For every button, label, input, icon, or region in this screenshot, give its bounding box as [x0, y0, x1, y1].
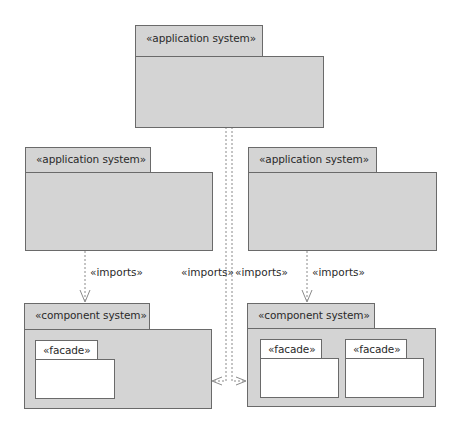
imports-label-top-right: «imports»	[235, 266, 288, 278]
facade-stereotype: «facade»	[43, 344, 91, 356]
package-mid-right-tab[interactable]: «application system»	[248, 147, 377, 173]
package-bottom-left-tab[interactable]: «component system»	[24, 303, 150, 330]
package-top-tab[interactable]: «application system»	[135, 25, 263, 57]
facade-bottom-right-2-body[interactable]	[345, 358, 424, 398]
imports-label-right: «imports»	[312, 266, 365, 278]
package-mid-right-body[interactable]	[248, 172, 437, 251]
imports-label-left: «imports»	[90, 266, 143, 278]
package-bottom-right-stereotype: «component system»	[258, 309, 370, 321]
package-mid-left-tab[interactable]: «application system»	[25, 147, 151, 173]
arrowhead-left-icon	[212, 377, 222, 385]
facade-bottom-right-1-tab[interactable]: «facade»	[260, 339, 322, 359]
facade-bottom-right-1-body[interactable]	[260, 358, 339, 398]
package-bottom-right-tab[interactable]: «component system»	[247, 303, 375, 329]
facade-bottom-left-1-body[interactable]	[35, 359, 115, 399]
package-mid-left-body[interactable]	[25, 172, 213, 251]
package-top-body[interactable]	[135, 56, 324, 128]
facade-stereotype: «facade»	[268, 343, 316, 355]
package-bottom-left-stereotype: «component system»	[35, 309, 147, 321]
package-mid-left-stereotype: «application system»	[36, 153, 146, 165]
package-top-stereotype: «application system»	[146, 32, 256, 44]
dependency-top-to-bottom-right	[232, 127, 246, 381]
facade-bottom-right-2-tab[interactable]: «facade»	[345, 339, 407, 359]
dependency-top-to-bottom-left	[212, 127, 226, 381]
imports-label-top-left: «imports»	[181, 266, 234, 278]
facade-bottom-left-1-tab[interactable]: «facade»	[35, 340, 98, 360]
facade-stereotype: «facade»	[353, 343, 401, 355]
arrowhead-right-icon	[236, 377, 246, 385]
package-mid-right-stereotype: «application system»	[259, 153, 369, 165]
